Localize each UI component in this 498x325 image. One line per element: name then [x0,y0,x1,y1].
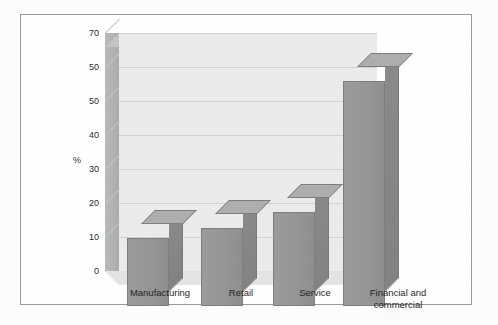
y-tick-label-60: 50 [71,62,99,72]
bar-financial-and-commercial-side [385,53,399,292]
bar-chart-plot-area: % 70 50 50 40 30 20 10 0 [21,15,473,306]
y-tick-label-0: 0 [71,266,99,276]
x-label-financial-and-commercial: Financial and commercial [345,287,451,311]
x-label-retail: Retail [201,287,281,299]
y-tick-label-70: 70 [71,28,99,38]
bar-financial-and-commercial-front [343,81,385,306]
y-tick-label-40: 40 [71,130,99,140]
x-label-service-line1: Service [299,287,331,298]
chart-side-wall [105,33,119,271]
scanned-page: % 70 50 50 40 30 20 10 0 [0,0,498,325]
y-tick-label-50: 50 [71,96,99,106]
figure-frame: % 70 50 50 40 30 20 10 0 [20,14,472,305]
x-label-financial-line1: Financial and [345,287,451,299]
bar-service [273,36,315,306]
x-label-service: Service [275,287,355,299]
x-label-manufacturing-line1: Manufacturing [130,287,190,298]
bar-service-side [315,184,329,292]
bar-financial-and-commercial [343,36,385,306]
y-axis-tick-labels: 70 50 50 40 30 20 10 0 [67,15,99,306]
y-tick-label-30: 30 [71,164,99,174]
gridline-70 [119,33,377,34]
x-label-financial-line2: commercial [345,299,451,311]
bar-manufacturing [127,36,169,306]
x-label-retail-line1: Retail [229,287,253,298]
chart-side-wall-top-bevel [105,33,119,47]
y-tick-label-20: 20 [71,198,99,208]
bar-retail [201,36,243,306]
x-label-manufacturing: Manufacturing [105,287,215,299]
bar-financial-and-commercial-top [357,53,413,67]
x-axis-category-labels: Manufacturing Retail Service Financial a… [105,287,395,323]
y-tick-label-10: 10 [71,232,99,242]
